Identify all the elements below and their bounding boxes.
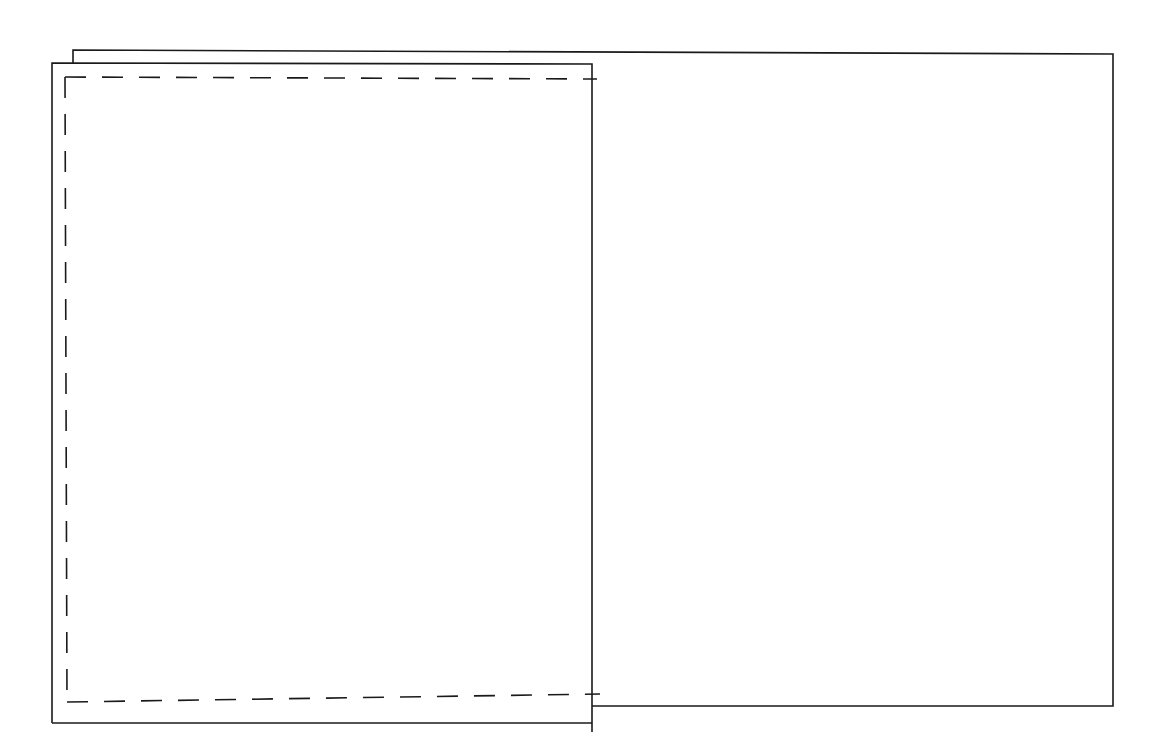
dashed-top (65, 77, 597, 79)
front-rectangle (52, 63, 592, 732)
back-rectangle-outline (73, 50, 1113, 706)
dashed-left (65, 77, 67, 702)
diagram-canvas (0, 0, 1166, 756)
back-rectangle (73, 50, 1113, 706)
front-rectangle-outline (52, 63, 592, 732)
dashed-bottom (67, 694, 600, 702)
dashed-rectangle (65, 77, 600, 702)
